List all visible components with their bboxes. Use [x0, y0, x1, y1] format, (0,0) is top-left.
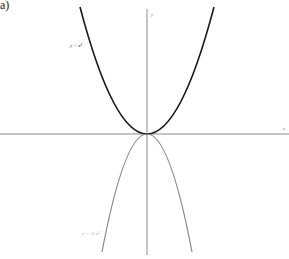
curve-label-x-squared: y = x²: [70, 43, 82, 48]
plot-area: [0, 0, 289, 259]
graph-figure: a) y x y = x² y = -2 x²: [0, 0, 289, 259]
x-axis-label: x: [283, 126, 285, 131]
curve-label-neg2x-squared: y = -2 x²: [82, 231, 99, 236]
y-axis-label: y: [151, 12, 153, 17]
